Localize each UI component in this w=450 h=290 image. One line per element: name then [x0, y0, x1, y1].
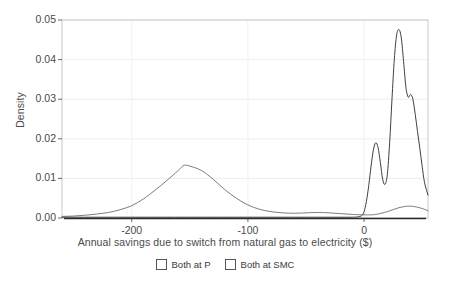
legend-label: Both at P — [172, 259, 211, 270]
y-tick-label: 0.02 — [12, 132, 56, 144]
series-line-both-at-smc — [62, 29, 428, 217]
x-axis-title: Annual savings due to switch from natura… — [0, 236, 450, 248]
y-tick-label: 0.03 — [12, 92, 56, 104]
legend-swatch-icon — [156, 259, 167, 270]
legend-item-both-at-smc[interactable]: Both at SMC — [225, 259, 295, 270]
x-tick-label: -100 — [218, 224, 278, 236]
y-tick-label: 0.05 — [12, 13, 56, 25]
y-tick-label: 0.00 — [12, 211, 56, 223]
legend-label: Both at SMC — [241, 259, 295, 270]
legend-swatch-icon — [225, 259, 236, 270]
series-line-both-at-p — [62, 165, 428, 216]
density-chart: Density Annual savings due to switch fro… — [0, 0, 450, 290]
x-tick-label: -200 — [102, 224, 162, 236]
y-tick-label: 0.01 — [12, 171, 56, 183]
legend-item-both-at-p[interactable]: Both at P — [156, 259, 211, 270]
x-tick-label: 0 — [334, 224, 394, 236]
plot-frame — [62, 20, 428, 218]
y-tick-label: 0.04 — [12, 53, 56, 65]
chart-legend: Both at P Both at SMC — [0, 259, 450, 270]
